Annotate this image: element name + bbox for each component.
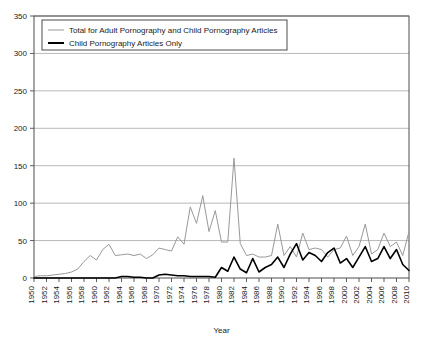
x-tick-label: 1998 bbox=[327, 285, 336, 303]
x-tick-label: 1970 bbox=[152, 285, 161, 303]
x-axis-label: Year bbox=[213, 326, 230, 335]
x-tick-label: 1958 bbox=[77, 285, 86, 303]
x-tick-label: 1986 bbox=[252, 285, 261, 303]
x-tick-label: 2000 bbox=[340, 285, 349, 303]
x-tick-label: 1966 bbox=[127, 285, 136, 303]
y-tick-label: 150 bbox=[14, 162, 28, 171]
y-tick-label: 50 bbox=[18, 237, 27, 246]
x-tick-label: 1960 bbox=[90, 285, 99, 303]
x-tick-label: 1972 bbox=[165, 285, 174, 303]
y-tick-label: 350 bbox=[14, 12, 28, 21]
x-tick-label: 1994 bbox=[302, 285, 311, 303]
legend-item-label: Child Pornography Articles Only bbox=[69, 39, 182, 48]
x-tick-label: 2010 bbox=[402, 285, 411, 303]
x-tick-label: 2004 bbox=[365, 285, 374, 303]
x-tick-label: 1964 bbox=[115, 285, 124, 303]
x-tick-label: 1950 bbox=[27, 285, 36, 303]
y-tick-label: 200 bbox=[14, 124, 28, 133]
x-tick-label: 2008 bbox=[390, 285, 399, 303]
x-tick-label: 1984 bbox=[240, 285, 249, 303]
chart-container: 050100150200250300350 195019521954195619… bbox=[0, 0, 422, 339]
x-tick-label: 2002 bbox=[352, 285, 361, 303]
x-tick-label: 1968 bbox=[140, 285, 149, 303]
y-tick-label: 0 bbox=[23, 274, 28, 283]
y-tick-label: 250 bbox=[14, 87, 28, 96]
x-tick-label: 1980 bbox=[215, 285, 224, 303]
x-tick-label: 1962 bbox=[102, 285, 111, 303]
chart-legend: Total for Adult Pornography and Child Po… bbox=[42, 20, 287, 50]
x-tick-label: 1996 bbox=[315, 285, 324, 303]
y-tick-label: 300 bbox=[14, 49, 28, 58]
x-tick-label: 2006 bbox=[377, 285, 386, 303]
x-tick-label: 1956 bbox=[65, 285, 74, 303]
x-tick-label: 1982 bbox=[227, 285, 236, 303]
x-tick-label: 1992 bbox=[290, 285, 299, 303]
x-tick-label: 1976 bbox=[190, 285, 199, 303]
line-chart: 050100150200250300350 195019521954195619… bbox=[0, 0, 422, 339]
x-tick-label: 1954 bbox=[52, 285, 61, 303]
x-tick-label: 1988 bbox=[265, 285, 274, 303]
y-tick-label: 100 bbox=[14, 199, 28, 208]
x-tick-label: 1978 bbox=[202, 285, 211, 303]
legend-item-label: Total for Adult Pornography and Child Po… bbox=[69, 26, 278, 35]
x-tick-label: 1974 bbox=[177, 285, 186, 303]
x-tick-label: 1952 bbox=[40, 285, 49, 303]
x-tick-label: 1990 bbox=[277, 285, 286, 303]
